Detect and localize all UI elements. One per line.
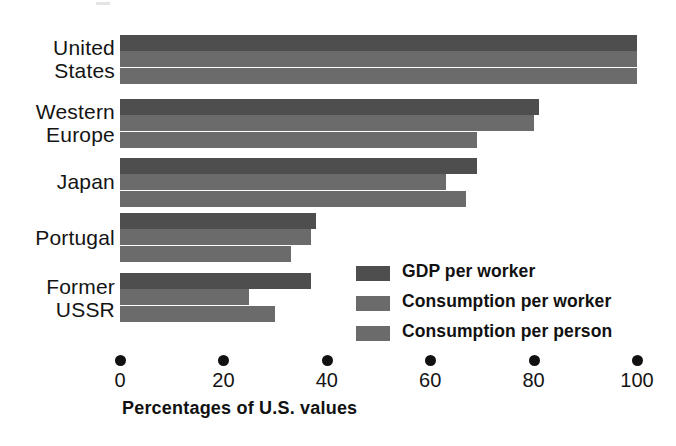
x-axis-tick-label: 0: [90, 370, 150, 390]
bar-consumption-per-worker: [120, 51, 637, 67]
bar-gdp-per-worker: [120, 273, 311, 289]
bar-consumption-per-person: [120, 68, 637, 84]
x-axis-tick-label: 80: [504, 370, 564, 390]
category-label-western-europe: Western Europe: [0, 100, 115, 146]
legend-swatch-icon: [356, 296, 390, 311]
bar-consumption-per-person: [120, 246, 291, 262]
x-axis-tick-dot: [218, 355, 229, 366]
category-label-united-states: United States: [0, 36, 115, 82]
legend-swatch-icon: [356, 266, 390, 281]
x-axis-tick-dot: [115, 355, 126, 366]
x-axis-tick-dot: [425, 355, 436, 366]
category-label-portugal: Portugal: [0, 226, 115, 249]
bar-consumption-per-worker: [120, 115, 534, 131]
bar-consumption-per-worker: [120, 174, 446, 190]
x-axis-tick-dot: [322, 355, 333, 366]
bar-gdp-per-worker: [120, 35, 637, 51]
bar-gdp-per-worker: [120, 213, 316, 229]
x-axis-tick-label: 20: [193, 370, 253, 390]
x-axis-tick-dot: [632, 355, 643, 366]
bar-consumption-per-person: [120, 132, 477, 148]
legend-label: Consumption per worker: [402, 291, 611, 312]
legend-swatch-icon: [356, 326, 390, 341]
x-axis-title: Percentages of U.S. values: [122, 398, 357, 419]
category-label-former-ussr: Former USSR: [0, 275, 115, 321]
x-axis-tick-label: 40: [297, 370, 357, 390]
bar-chart: United States Western Europe Japan Portu…: [0, 0, 676, 446]
legend-label: GDP per worker: [402, 261, 535, 282]
x-axis-tick-label: 100: [607, 370, 667, 390]
x-axis-tick-label: 60: [400, 370, 460, 390]
x-axis-tick-dot: [529, 355, 540, 366]
bar-consumption-per-person: [120, 191, 466, 207]
bar-consumption-per-worker: [120, 289, 249, 305]
scan-artifact: [96, 2, 110, 5]
legend-label: Consumption per person: [402, 321, 612, 342]
category-label-japan: Japan: [0, 170, 115, 193]
bar-consumption-per-person: [120, 306, 275, 322]
bar-gdp-per-worker: [120, 158, 477, 174]
bar-gdp-per-worker: [120, 99, 539, 115]
bar-consumption-per-worker: [120, 229, 311, 245]
